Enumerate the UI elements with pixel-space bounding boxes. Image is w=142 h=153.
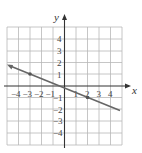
point-neg3-1 [28, 72, 32, 76]
svg-text:−3: −3 [53, 116, 63, 126]
coordinate-graph: x y −4 −3 −2 −1 1 2 3 4 4 3 2 1 −1 −2 −3… [0, 0, 142, 153]
svg-text:−2: −2 [34, 89, 44, 99]
y-axis-arrow-icon [62, 14, 67, 20]
svg-text:1: 1 [57, 70, 62, 80]
svg-text:−4: −4 [11, 89, 21, 99]
point-2-neg1 [86, 96, 90, 100]
svg-text:3: 3 [57, 46, 62, 56]
x-axis-label: x [131, 84, 137, 96]
svg-text:−4: −4 [53, 128, 63, 138]
line-arrow-left-icon [7, 65, 13, 70]
svg-text:4: 4 [108, 89, 113, 99]
y-axis-label: y [53, 11, 59, 23]
svg-text:3: 3 [97, 89, 102, 99]
svg-text:4: 4 [57, 34, 62, 44]
svg-text:−3: −3 [23, 89, 33, 99]
svg-text:−1: −1 [53, 93, 63, 103]
x-axis-arrow-icon [125, 84, 131, 89]
svg-text:−2: −2 [53, 105, 63, 115]
svg-text:2: 2 [57, 58, 62, 68]
